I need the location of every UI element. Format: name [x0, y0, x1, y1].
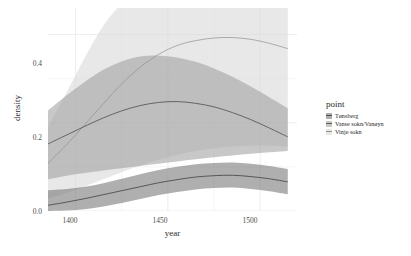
legend-label-vanse-sokn: Vanse sokn/Vanøyn [335, 120, 384, 127]
legend-label-tonsberg: Tønsberg [335, 112, 358, 119]
x-tick-label-1400: 1400 [55, 216, 85, 225]
y-tick-label-0.4: 0.4 [20, 59, 42, 68]
legend-key-vinje-sokn-icon [326, 129, 332, 135]
legend-item-vinje-sokn[interactable]: Vinje sokn [326, 128, 408, 135]
legend-item-tonsberg[interactable]: Tønsberg [326, 112, 408, 119]
x-tick-label-1450: 1450 [145, 216, 175, 225]
plot-panel [48, 8, 297, 211]
legend-key-vanse-sokn-icon [326, 121, 332, 127]
legend-label-vinje-sokn: Vinje sokn [335, 128, 362, 135]
legend: point Tønsberg Vanse sokn/Vanøyn Vinje s… [326, 99, 408, 136]
density-chart: 0.4 0.2 0.0 density 1400 1450 1500 year … [0, 0, 411, 256]
x-axis-title: year [48, 228, 297, 238]
y-axis-title: density [12, 78, 22, 138]
legend-item-vanse-sokn[interactable]: Vanse sokn/Vanøyn [326, 120, 408, 127]
confidence-bands [48, 8, 288, 211]
x-tick-label-1500: 1500 [235, 216, 265, 225]
y-tick-label-0.2: 0.2 [20, 133, 42, 142]
plot-area [48, 8, 297, 211]
legend-title: point [326, 99, 408, 109]
y-tick-label-0.0: 0.0 [20, 207, 42, 216]
legend-key-tonsberg-icon [326, 113, 332, 119]
